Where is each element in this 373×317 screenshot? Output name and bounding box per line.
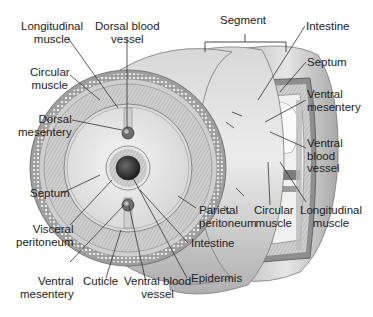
label-circular-muscle-left: Circular muscle [30,66,70,91]
label-septum-right: Septum [307,56,347,69]
label-circular-muscle-bottom: Circular muscle [254,204,294,229]
label-segment: Segment [220,14,266,27]
label-ventral-blood-vessel-bottom: Ventral blood vessel [124,275,191,300]
annelid-diagram: Longitudinal muscle Dorsal blood vessel … [0,0,373,317]
label-epidermis: Epidermis [191,272,242,285]
label-parietal-peritoneum: Parietal peritoneum [199,204,257,229]
label-septum-left: Septum [30,187,70,200]
label-ventral-mesentery-right: Ventral mesentery [307,88,361,113]
label-longitudinal-muscle-left: Longitudinal muscle [21,20,83,45]
label-dorsal-blood-vessel: Dorsal blood vessel [95,20,160,45]
label-intestine-bottom: Intestine [191,237,234,250]
label-intestine-top: Intestine [306,20,349,33]
label-ventral-mesentery-bottom: Ventral mesentery [20,275,74,300]
label-ventral-blood-vessel-right: Ventral blood vessel [307,137,343,175]
label-longitudinal-muscle-bottom: Longitudinal muscle [300,204,362,229]
label-cuticle: Cuticle [83,275,118,288]
intestine-lumen [116,156,140,180]
label-dorsal-mesentery: Dorsal mesentery [18,113,72,138]
label-visceral-peritoneum: Visceral peritoneum [16,223,74,248]
